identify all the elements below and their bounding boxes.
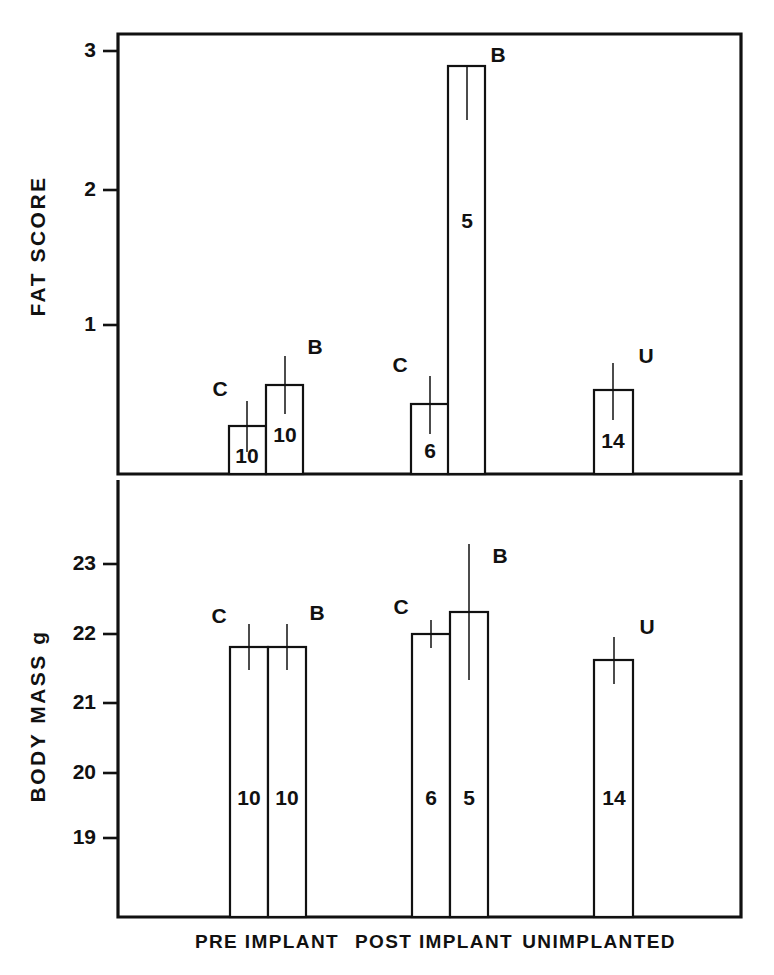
x-axis-labels: PRE IMPLANT POST IMPLANT UNIMPLANTED xyxy=(195,931,676,952)
figure-container: 3 2 1 FAT SCORE C 10 B 10 C 6 xyxy=(0,0,774,975)
top-bar-code-pre-c: C xyxy=(212,377,227,400)
bottom-group-unimplanted: U 14 xyxy=(594,615,655,917)
ytick-label-1: 1 xyxy=(84,312,96,335)
ytick-label-22: 22 xyxy=(73,621,96,644)
top-bar-n-pre-c: 10 xyxy=(235,444,258,467)
bottom-group-post-implant: C 6 B 5 xyxy=(393,544,507,917)
top-bar-n-post-b: 5 xyxy=(461,209,473,232)
x-axis-label-pre-implant: PRE IMPLANT xyxy=(195,931,339,952)
bottom-panel-yticks: 23 22 21 20 19 xyxy=(73,551,118,848)
top-panel-y-axis-title: FAT SCORE xyxy=(26,175,49,316)
bottom-bar-code-pre-b: B xyxy=(309,601,324,624)
bottom-bar-code-pre-c: C xyxy=(211,604,226,627)
top-group-unimplanted: U 14 xyxy=(594,344,654,474)
bottom-panel-body-mass: 23 22 21 20 19 BODY MASS g C 10 B 10 xyxy=(26,480,741,917)
ytick-label-3: 3 xyxy=(84,38,96,61)
top-bar-n-post-c: 6 xyxy=(424,439,436,462)
top-bar-code-post-c: C xyxy=(392,353,407,376)
ytick-label-19: 19 xyxy=(73,825,96,848)
top-bar-n-pre-b: 10 xyxy=(273,423,296,446)
bottom-bar-n-post-c: 6 xyxy=(425,786,437,809)
bottom-bar-post-c xyxy=(412,634,450,917)
bottom-bar-code-unimplanted-u: U xyxy=(639,615,654,638)
bottom-bar-code-post-b: B xyxy=(492,544,507,567)
top-bar-n-unimplanted-u: 14 xyxy=(601,429,625,452)
top-bar-code-pre-b: B xyxy=(307,335,322,358)
x-axis-label-post-implant: POST IMPLANT xyxy=(355,931,513,952)
bottom-bar-pre-b xyxy=(268,647,306,917)
bottom-bar-n-post-b: 5 xyxy=(463,786,475,809)
ytick-label-2: 2 xyxy=(84,177,96,200)
top-panel-yticks: 3 2 1 xyxy=(84,38,118,335)
x-axis-label-unimplanted: UNIMPLANTED xyxy=(522,931,676,952)
top-bar-code-unimplanted-u: U xyxy=(638,344,653,367)
ytick-label-21: 21 xyxy=(73,690,97,713)
bottom-group-pre-implant: C 10 B 10 xyxy=(211,601,324,917)
top-bar-code-post-b: B xyxy=(490,43,505,66)
bottom-bar-n-unimplanted-u: 14 xyxy=(602,786,626,809)
top-group-pre-implant: C 10 B 10 xyxy=(212,335,322,474)
ytick-label-23: 23 xyxy=(73,551,96,574)
bottom-panel-y-axis-title: BODY MASS g xyxy=(26,630,49,803)
bottom-bar-code-post-c: C xyxy=(393,595,408,618)
ytick-label-20: 20 xyxy=(73,760,96,783)
bottom-bar-pre-c xyxy=(230,647,268,917)
bottom-bar-n-pre-c: 10 xyxy=(237,786,260,809)
top-panel-fat-score: 3 2 1 FAT SCORE C 10 B 10 C 6 xyxy=(26,34,741,474)
two-panel-bar-chart: 3 2 1 FAT SCORE C 10 B 10 C 6 xyxy=(0,0,774,975)
top-group-post-implant: C 6 B 5 xyxy=(392,43,505,474)
top-bar-post-b xyxy=(448,66,485,474)
bottom-bar-n-pre-b: 10 xyxy=(275,786,298,809)
